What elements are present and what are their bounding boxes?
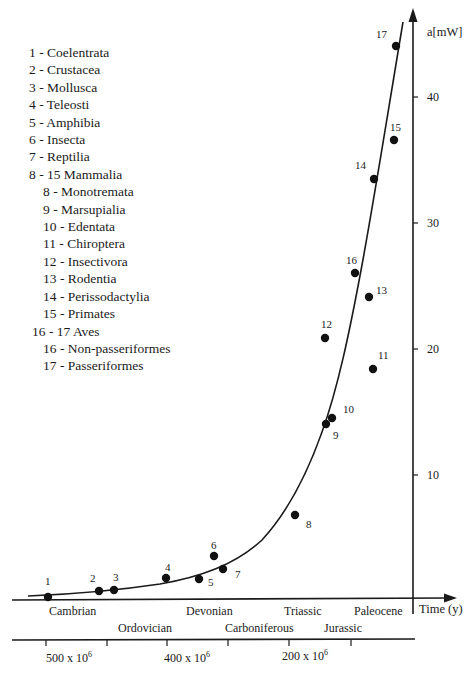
data-point <box>110 586 118 594</box>
period-label: Carboniferous <box>225 621 294 635</box>
trend-curve <box>28 22 403 596</box>
data-point <box>195 575 203 583</box>
time-label: 200 x 106 <box>282 648 328 663</box>
data-point <box>44 593 52 601</box>
period-label: Ordovician <box>118 621 172 635</box>
time-label: 400 x 106 <box>164 650 210 665</box>
point-label: 1 <box>45 575 51 587</box>
period-label: Triassic <box>284 604 322 618</box>
data-point <box>322 420 330 428</box>
y-axis: 40 30 20 10 a[mW] <box>409 8 463 614</box>
y-tick-label: 30 <box>427 216 439 230</box>
data-point <box>291 511 299 519</box>
point-label: 7 <box>235 568 241 580</box>
data-point <box>321 334 329 342</box>
point-label: 4 <box>165 561 171 573</box>
data-point <box>219 565 227 573</box>
period-label: Cambrian <box>49 604 96 618</box>
data-point <box>370 175 378 183</box>
y-tick-label: 10 <box>427 468 439 482</box>
point-label: 10 <box>343 403 355 415</box>
y-tick-label: 40 <box>427 90 439 104</box>
x-axis: Time (y) Cambrian Ordovician Devonian Ca… <box>12 594 463 636</box>
time-label: 500 x 106 <box>46 650 92 665</box>
point-label: 13 <box>376 284 388 296</box>
point-label: 11 <box>378 349 389 361</box>
point-label: 3 <box>113 571 119 583</box>
point-label: 17 <box>376 28 388 40</box>
data-point <box>392 42 400 50</box>
data-point <box>365 293 373 301</box>
point-label: 2 <box>90 572 96 584</box>
data-point <box>210 552 218 560</box>
y-axis-label: a[mW] <box>427 25 462 39</box>
y-tick-label: 20 <box>427 342 439 356</box>
time-scale: 500 x 106 400 x 106 200 x 106 <box>12 639 415 665</box>
x-axis-label: Time (y) <box>419 602 463 616</box>
y-axis-arrow-icon <box>409 8 418 22</box>
point-label: 8 <box>306 518 312 530</box>
point-labels: 1 2 3 4 5 6 7 8 9 10 11 12 13 14 15 16 1… <box>45 28 402 588</box>
chart: 40 30 20 10 a[mW] Time (y) Cambrian Ordo… <box>0 0 470 687</box>
point-label: 12 <box>321 318 332 330</box>
period-label: Paleocene <box>354 604 403 618</box>
data-point <box>162 574 170 582</box>
point-label: 5 <box>208 576 214 588</box>
data-point <box>369 365 377 373</box>
point-label: 14 <box>355 159 367 171</box>
period-label: Jurassic <box>324 621 362 635</box>
data-points <box>44 42 400 601</box>
data-point <box>95 587 103 595</box>
point-label: 16 <box>346 254 358 266</box>
point-label: 15 <box>390 121 402 133</box>
data-point <box>351 269 359 277</box>
data-point <box>328 414 336 422</box>
period-label: Devonian <box>186 604 233 618</box>
point-label: 6 <box>211 539 217 551</box>
point-label: 9 <box>333 429 339 441</box>
data-point <box>390 136 398 144</box>
